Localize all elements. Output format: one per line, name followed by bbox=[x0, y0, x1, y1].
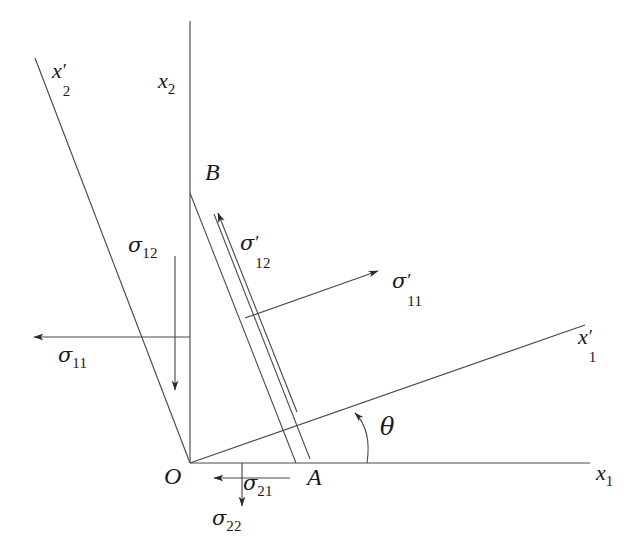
stress-label-sigma-21: σ21 bbox=[243, 473, 273, 494]
sigma-glyph: σ bbox=[58, 343, 72, 367]
prime-mark: ′ bbox=[255, 233, 259, 252]
stress-label-sigma-12-prime-sub: 12 bbox=[255, 256, 270, 271]
point-label-O: O bbox=[164, 464, 181, 488]
theta-arc bbox=[355, 413, 368, 463]
sigma-glyph: σ bbox=[240, 231, 254, 255]
point-label-A: A bbox=[307, 465, 322, 489]
sigma-11-prime-arrow bbox=[245, 271, 378, 318]
axis-label-x1-prime-sub: 1 bbox=[589, 350, 597, 365]
axis-label-x2-base: x bbox=[158, 68, 168, 93]
axis-label-x2-prime: x′2 bbox=[52, 60, 62, 82]
stress-label-sigma-11-sub: 11 bbox=[72, 355, 87, 371]
stress-label-sigma-22-sub: 22 bbox=[226, 518, 241, 534]
angle-arc-group bbox=[355, 413, 368, 463]
sigma-glyph: σ bbox=[243, 471, 257, 495]
prime-mark: ′ bbox=[407, 271, 411, 290]
axis-x1-prime-line bbox=[190, 325, 585, 463]
cut-line-ab-offset bbox=[214, 214, 310, 459]
stress-transformation-figure: x2 x1 x′2 x′1 O A B θ σ11 σ12 σ21 σ22 σ′… bbox=[0, 0, 639, 546]
stress-label-sigma-11: σ11 bbox=[58, 345, 87, 366]
stress-label-sigma-12-sub: 12 bbox=[142, 245, 157, 261]
axis-x2-prime-line bbox=[35, 58, 190, 463]
point-label-B: B bbox=[205, 160, 220, 184]
prime-mark: ′ bbox=[589, 327, 593, 346]
axis-label-x2-sub: 2 bbox=[168, 81, 176, 97]
stress-label-sigma-11-prime-sub: 11 bbox=[407, 294, 422, 309]
sigma-glyph: σ bbox=[392, 269, 406, 293]
axis-label-x2-prime-base: x bbox=[52, 58, 62, 83]
axis-label-x1-sub: 1 bbox=[606, 473, 614, 489]
axis-label-x1: x1 bbox=[596, 462, 613, 484]
prime-mark: ′ bbox=[63, 61, 67, 80]
sigma-glyph: σ bbox=[212, 506, 226, 530]
stress-label-sigma-11-prime: σ′11 bbox=[392, 271, 406, 292]
stress-label-sigma-21-sub: 21 bbox=[257, 483, 272, 499]
axis-label-x2: x2 bbox=[158, 70, 175, 92]
sigma-glyph: σ bbox=[128, 233, 142, 257]
axis-label-x2-prime-sub: 2 bbox=[63, 84, 71, 99]
axis-label-x1-prime: x′1 bbox=[578, 326, 588, 348]
stress-label-sigma-22: σ22 bbox=[212, 508, 242, 529]
angle-label-theta: θ bbox=[380, 415, 394, 439]
coordinate-axes bbox=[35, 21, 590, 463]
stress-label-sigma-12: σ12 bbox=[128, 235, 158, 256]
axis-label-x1-base: x bbox=[596, 460, 606, 485]
axis-label-x1-prime-base: x bbox=[578, 324, 588, 349]
stress-label-sigma-12-prime: σ′12 bbox=[240, 233, 254, 254]
